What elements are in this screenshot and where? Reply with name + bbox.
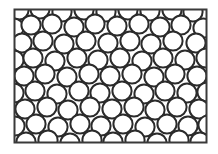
packed-circle [157, 114, 176, 133]
packed-circle [67, 48, 86, 67]
packed-circle [70, 114, 89, 133]
packed-circle [120, 31, 139, 50]
packed-circle [35, 64, 54, 83]
packed-circle [163, 31, 182, 50]
packed-circle [79, 64, 98, 83]
packed-circle [124, 97, 143, 116]
packed-circle [23, 48, 42, 67]
packed-circle [155, 81, 174, 100]
packed-circle [167, 97, 186, 116]
packed-circle [21, 15, 40, 34]
packed-circle [165, 64, 184, 83]
packed-circle [113, 114, 132, 133]
microstructure-diagram [0, 0, 218, 154]
packed-circle [80, 97, 99, 116]
packed-circle [153, 48, 172, 67]
packed-circle [25, 81, 44, 100]
packed-circle [37, 97, 56, 116]
figure-root [0, 0, 218, 154]
packed-circle [33, 31, 52, 50]
packed-circle [110, 48, 129, 67]
packed-circle [112, 81, 131, 100]
packed-circle [26, 114, 45, 133]
packed-circle [122, 64, 141, 83]
